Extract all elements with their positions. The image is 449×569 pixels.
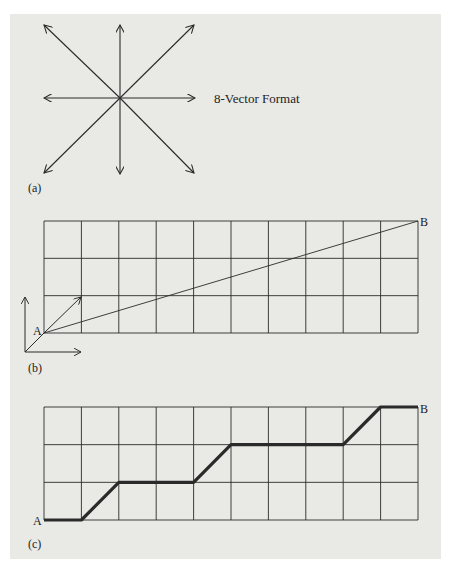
- arrow-southeast-icon: [120, 98, 194, 173]
- point-a-label-c: A: [33, 514, 42, 528]
- caption-8-vector-format: 8-Vector Format: [214, 91, 300, 106]
- figure-canvas: 8-Vector Format (a) A B (b) A B (c): [0, 0, 449, 569]
- eight-vector-star: [44, 25, 195, 174]
- arrow-northeast-icon: [120, 25, 194, 98]
- arrow-southwest-icon: [44, 98, 120, 173]
- point-a-label-b: A: [33, 324, 42, 338]
- panel-a-label: (a): [28, 181, 41, 195]
- panel-b-label: (b): [28, 361, 42, 375]
- arrow-northwest-icon: [44, 25, 120, 98]
- point-b-label-c: B: [420, 402, 428, 416]
- panel-c-label: (c): [28, 537, 41, 551]
- point-b-label-b: B: [420, 215, 428, 229]
